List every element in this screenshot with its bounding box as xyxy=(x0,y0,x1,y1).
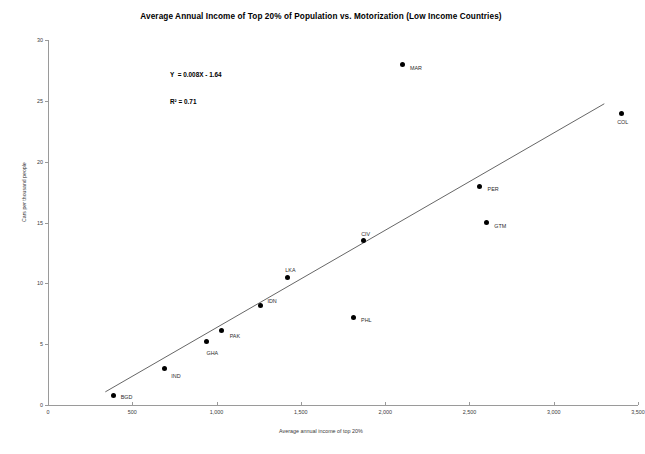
data-point[interactable] xyxy=(477,184,482,189)
x-tick-mark xyxy=(132,402,133,405)
data-point[interactable] xyxy=(162,366,167,371)
data-point[interactable] xyxy=(111,393,116,398)
y-tick-label: 10 xyxy=(17,280,43,286)
data-point-label: PER xyxy=(488,186,499,192)
data-point[interactable] xyxy=(351,315,356,320)
data-point[interactable] xyxy=(484,220,489,225)
data-point-label: PHL xyxy=(361,317,372,323)
y-tick-label: 25 xyxy=(17,98,43,104)
data-point-label: IDN xyxy=(267,298,276,304)
x-tick-label: 2,500 xyxy=(463,409,477,415)
y-tick-mark xyxy=(45,223,48,224)
y-tick-mark xyxy=(45,40,48,41)
x-tick-mark xyxy=(469,402,470,405)
data-point-label: COL xyxy=(617,119,628,125)
data-point-label: IND xyxy=(171,373,180,379)
data-point-label: PAK xyxy=(230,333,240,339)
data-point-label: LKA xyxy=(285,267,295,273)
x-tick-label: 2,000 xyxy=(378,409,392,415)
y-tick-label: 5 xyxy=(17,341,43,347)
x-tick-label: 1,500 xyxy=(294,409,308,415)
data-point[interactable] xyxy=(285,275,290,280)
data-point[interactable] xyxy=(258,303,263,308)
data-point-label: GTM xyxy=(494,223,506,229)
y-tick-mark xyxy=(45,101,48,102)
y-tick-mark xyxy=(45,344,48,345)
y-tick-label: 15 xyxy=(17,220,43,226)
data-point-label: CIV xyxy=(361,231,370,237)
x-tick-mark xyxy=(217,402,218,405)
trendline xyxy=(105,104,604,392)
y-tick-label: 20 xyxy=(17,159,43,165)
x-tick-mark xyxy=(638,402,639,405)
y-tick-mark xyxy=(45,283,48,284)
data-point[interactable] xyxy=(619,111,624,116)
x-tick-label: 3,000 xyxy=(547,409,561,415)
y-tick-mark xyxy=(45,405,48,406)
x-tick-mark xyxy=(554,402,555,405)
x-tick-label: 0 xyxy=(47,409,50,415)
y-tick-label: 30 xyxy=(17,37,43,43)
x-tick-mark xyxy=(385,402,386,405)
data-point-label: MAR xyxy=(410,65,422,71)
x-tick-label: 3,500 xyxy=(631,409,645,415)
data-point[interactable] xyxy=(361,238,366,243)
y-tick-label: 0 xyxy=(17,402,43,408)
x-tick-label: 1,000 xyxy=(210,409,224,415)
data-point-label: BGD xyxy=(121,394,133,400)
x-tick-label: 500 xyxy=(128,409,137,415)
data-point[interactable] xyxy=(400,62,405,67)
y-tick-mark xyxy=(45,162,48,163)
x-tick-mark xyxy=(301,402,302,405)
data-point-label: GHA xyxy=(206,350,218,356)
